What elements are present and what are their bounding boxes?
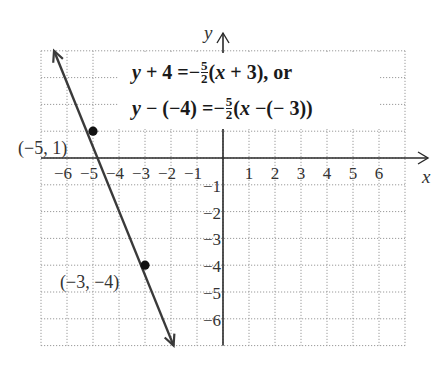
equation-line-2: y − (−4) =−52(x −(− 3)) (132, 97, 313, 123)
x-tick-label: −6 (54, 165, 72, 182)
eq-text: + 3), or (225, 61, 292, 83)
x-tick-label: −3 (132, 165, 150, 182)
plotted-point (88, 127, 97, 136)
denominator: 2 (226, 109, 233, 121)
denominator: 2 (201, 73, 208, 85)
var-y: y (132, 61, 141, 83)
equation-box: y + 4 =−52(x + 3), or y − (−4) =−52(x −(… (118, 53, 380, 129)
eq-text: − (−4) =− (141, 97, 225, 119)
eq-text: ( (233, 97, 240, 119)
y-tick-label: −5 (203, 285, 221, 302)
x-tick-label: −5 (80, 165, 98, 182)
equation-line-1: y + 4 =−52(x + 3), or (132, 61, 292, 87)
y-axis-label: y (204, 22, 212, 44)
y-tick-label: −4 (203, 258, 221, 275)
x-tick-label: −1 (184, 165, 202, 182)
var-x: x (215, 61, 225, 83)
point-label-a: (−5, 1) (18, 138, 67, 159)
x-tick-label: 6 (375, 165, 384, 182)
var-y: y (132, 97, 141, 119)
x-tick-label: 4 (323, 165, 332, 182)
point-label-b: (−3, −4) (60, 272, 119, 293)
eq-text: + 4 =− (141, 61, 200, 83)
eq-text: −(− 3)) (250, 97, 313, 119)
y-tick-label: −2 (203, 205, 221, 222)
x-axis-label: x (422, 166, 430, 188)
y-tick-label: −3 (203, 231, 221, 248)
y-tick-label: −1 (203, 178, 221, 195)
fraction-five-halves: 52 (201, 60, 208, 85)
fraction-five-halves: 52 (226, 96, 233, 121)
y-tick-label: −6 (203, 312, 221, 329)
x-tick-label: 5 (349, 165, 358, 182)
x-tick-label: 3 (297, 165, 306, 182)
x-tick-label: −2 (158, 165, 176, 182)
x-tick-label: −4 (106, 165, 124, 182)
var-x: x (240, 97, 250, 119)
x-tick-label: 2 (271, 165, 280, 182)
x-tick-label: 1 (245, 165, 254, 182)
plotted-point (140, 261, 149, 270)
